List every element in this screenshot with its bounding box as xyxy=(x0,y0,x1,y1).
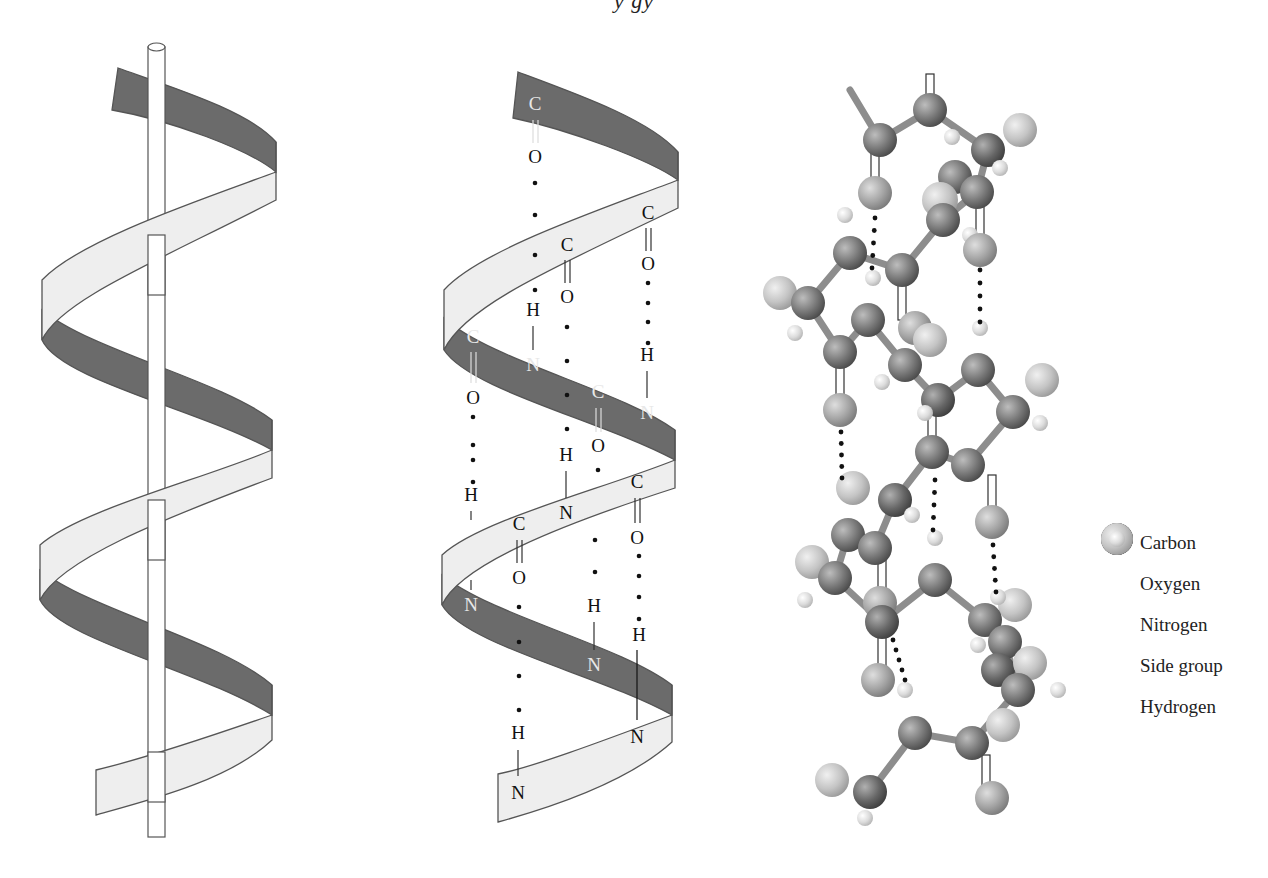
atoms xyxy=(763,93,1066,826)
atom-carbon xyxy=(996,395,1030,429)
atom-hydrogen xyxy=(944,129,960,145)
legend-item-hydrogen: Hydrogen xyxy=(1100,686,1223,727)
atom-hydrogen xyxy=(837,207,853,223)
atom-oxygen xyxy=(858,176,892,210)
legend-label: Nitrogen xyxy=(1140,614,1208,636)
atom-hydrogen xyxy=(857,810,873,826)
atom-oxygen xyxy=(975,505,1009,539)
atom-oxygen xyxy=(823,393,857,427)
atom-hydrogen xyxy=(970,637,986,653)
legend-label: Oxygen xyxy=(1140,573,1200,595)
atom-hydrogen xyxy=(1032,415,1048,431)
atom-hydrogen xyxy=(797,592,813,608)
atom-hydrogen xyxy=(927,530,943,546)
atom-carbon xyxy=(833,236,867,270)
atom-carbon xyxy=(926,203,960,237)
atom-carbon xyxy=(955,726,989,760)
atom-carbon xyxy=(918,563,952,597)
atom-hydrogen xyxy=(897,682,913,698)
atom-carbon xyxy=(823,335,857,369)
hydrogen-swatch-icon xyxy=(1100,522,1134,556)
atom-side-group xyxy=(1003,113,1037,147)
legend-item-side-group: Side group xyxy=(1100,645,1223,686)
atom-hydrogen xyxy=(904,507,920,523)
atom-carbon xyxy=(898,716,932,750)
atom-carbon xyxy=(951,448,985,482)
atom-carbon xyxy=(960,175,994,209)
atom-carbon xyxy=(791,286,825,320)
legend-label: Carbon xyxy=(1140,532,1196,554)
legend-label: Side group xyxy=(1140,655,1223,677)
atom-nitrogen xyxy=(853,775,887,809)
atom-carbon xyxy=(858,531,892,565)
atom-oxygen xyxy=(963,233,997,267)
atom-carbon xyxy=(851,303,885,337)
atom-carbon xyxy=(885,253,919,287)
atom-side-group xyxy=(913,323,947,357)
atom-oxygen xyxy=(861,663,895,697)
atom-carbon xyxy=(913,93,947,127)
atom-carbon xyxy=(888,348,922,382)
atom-hydrogen xyxy=(917,405,933,421)
atom-hydrogen xyxy=(787,325,803,341)
atom-oxygen xyxy=(975,781,1009,815)
atom-side-group xyxy=(815,763,849,797)
atom-hydrogen xyxy=(874,374,890,390)
atom-nitrogen xyxy=(865,605,899,639)
atom-carbon xyxy=(1001,673,1035,707)
atom-hydrogen xyxy=(992,160,1008,176)
legend-item-oxygen: Oxygen xyxy=(1100,563,1223,604)
atom-carbon xyxy=(818,561,852,595)
helix-ball-and-stick xyxy=(0,0,1268,878)
atom-side-group xyxy=(986,708,1020,742)
atom-hydrogen xyxy=(865,270,881,286)
atom-carbon xyxy=(863,123,897,157)
atom-legend: Carbon Oxygen Nitrogen Side group Hydrog… xyxy=(1100,522,1223,727)
legend-label: Hydrogen xyxy=(1140,696,1216,718)
atom-hydrogen xyxy=(1050,682,1066,698)
atom-side-group xyxy=(1025,363,1059,397)
legend-item-nitrogen: Nitrogen xyxy=(1100,604,1223,645)
atom-carbon xyxy=(915,435,949,469)
atom-carbon xyxy=(961,353,995,387)
